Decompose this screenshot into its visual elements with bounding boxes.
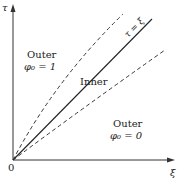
tau-axis-label: τ — [2, 2, 8, 13]
tau-axis-arrow-icon — [11, 4, 16, 12]
xi-axis-arrow-icon — [167, 158, 175, 163]
upper-dashed-boundary — [13, 14, 123, 160]
inner-title: Inner — [80, 76, 108, 87]
origin-label: 0 — [8, 162, 14, 173]
outer-upper-condition: φ₀ = 1 — [24, 61, 56, 72]
boundary-layer-diagram: τ ξ 0 τ = ξ Outer φ₀ = 1 Inner Outer φ₀ … — [0, 0, 182, 187]
outer-lower-condition: φ₀ = 0 — [110, 130, 143, 141]
outer-upper-title: Outer — [27, 49, 57, 60]
characteristic-line-label: τ = ξ — [122, 15, 146, 39]
outer-lower-title: Outer — [113, 118, 143, 129]
xi-axis-label: ξ — [170, 167, 176, 178]
